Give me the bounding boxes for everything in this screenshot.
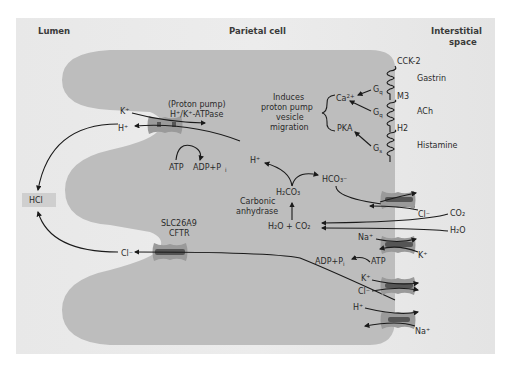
cytosol-h-ion: H⁺	[250, 156, 260, 165]
header-interstitial-line1: Interstitial	[431, 26, 482, 36]
hcl-label: HCl	[29, 196, 43, 205]
pump-k-ion: K⁺	[120, 107, 129, 116]
enzyme-line1: Carbonic	[240, 197, 275, 206]
h2co3-label: H₂CO₃	[276, 188, 300, 197]
basolateral-atp: ATP	[371, 257, 386, 266]
reactants-label: H₂O + CO₂	[268, 222, 310, 231]
na-k-atpase	[381, 236, 416, 254]
ligand-gastrin: Gastrin	[417, 74, 446, 83]
pka-label: PKA	[337, 124, 353, 133]
effect-line1: Induces	[273, 93, 304, 102]
ligand-ach: ACh	[417, 107, 433, 116]
receptor-cck2-label: CCK-2	[397, 57, 421, 66]
pump-h-ion: H⁺	[118, 124, 128, 133]
receptor-m3-label: M3	[397, 92, 409, 101]
proton-pump-title-line2: H⁺/K⁺-ATPase	[170, 110, 223, 119]
header-parietal-cell: Parietal cell	[229, 26, 286, 36]
co2-label: CO₂	[450, 209, 465, 218]
receptor-h2-label: H2	[397, 124, 408, 133]
basolateral-adp: ADP+Pi	[315, 257, 345, 267]
header-interstitial-line2: space	[449, 37, 477, 47]
h-ion-exchanger: H⁺	[353, 303, 363, 312]
hco3-label: HCO₃⁻	[322, 175, 347, 184]
parietal-cell-diagram: Lumen Parietal cell Interstitial space H…	[0, 0, 509, 365]
k-ion-2: K⁺	[361, 274, 370, 283]
enzyme-line2: anhydrase	[236, 207, 278, 216]
pump-adp: ADP+P	[193, 163, 221, 172]
header-lumen: Lumen	[38, 26, 70, 36]
pump-atp: ATP	[169, 163, 184, 172]
na-ion-1: Na⁺	[358, 233, 373, 242]
effect-line4: migration	[270, 123, 309, 132]
k-ion-1: K⁺	[418, 251, 427, 260]
proton-pump-title-line1: (Proton pump)	[168, 100, 226, 109]
cl-ion-2: Cl⁻	[358, 287, 370, 296]
h2o-label: H₂O	[450, 226, 466, 235]
effect-line2: proton pump	[261, 103, 313, 112]
lumen-cl-ion: Cl⁻	[121, 249, 133, 258]
k-cl-cotransporter	[381, 277, 416, 295]
chloride-channel-title-line1: SLC26A9	[161, 219, 197, 228]
ligand-histamine: Histamine	[417, 141, 458, 150]
effect-line3: vesicle	[276, 113, 304, 122]
na-ion-2: Na⁺	[415, 327, 430, 336]
chloride-channel-title-line2: CFTR	[169, 229, 190, 238]
